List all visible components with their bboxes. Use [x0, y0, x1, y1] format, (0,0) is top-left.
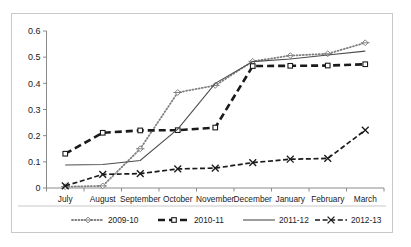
x-tick-label-march: March [354, 194, 377, 204]
data-point-marker [363, 62, 368, 67]
series-2009-10 [61, 40, 370, 190]
chart-legend: 2009-102010-112011-122012-13 [18, 206, 386, 225]
y-tick-label: 0.3 [28, 105, 41, 115]
x-tick-label-november: November [196, 194, 235, 204]
x-tick-label-december: December [234, 194, 273, 204]
y-tick-label: 0.5 [28, 52, 41, 62]
x-tick-label-august: August [90, 194, 117, 204]
legend-marker [172, 218, 177, 223]
data-point-marker [325, 63, 330, 68]
data-point-marker [63, 151, 68, 156]
data-point-marker [213, 125, 218, 130]
x-tick-label-january: January [275, 194, 305, 204]
data-point-marker [362, 127, 369, 134]
series-layer [61, 40, 370, 190]
legend-item-2010-11[interactable]: 2010-11 [158, 215, 224, 225]
y-axis: 00.10.20.30.40.50.6 [28, 26, 47, 193]
data-point-marker [288, 64, 293, 69]
y-tick-label: 0 [35, 183, 40, 193]
series-2010-11 [63, 62, 368, 156]
data-point-marker [138, 128, 143, 133]
data-point-marker [250, 64, 255, 69]
data-point-marker [100, 130, 105, 135]
y-tick-label: 0.2 [28, 131, 41, 141]
line-chart: 00.10.20.30.40.50.6 JulyAugustSeptemberO… [0, 0, 411, 247]
series-line [65, 51, 365, 165]
series-2011-12 [65, 51, 365, 165]
series-line [65, 43, 365, 187]
series-line [65, 64, 365, 153]
legend-label: 2010-11 [194, 215, 224, 225]
y-tick-label: 0.6 [28, 26, 41, 36]
legend-label: 2012-13 [351, 215, 382, 225]
x-tick-label-february: February [311, 194, 345, 204]
x-tick-label-july: July [58, 194, 74, 204]
x-axis: JulyAugustSeptemberOctoberNovemberDecemb… [47, 188, 385, 204]
x-tick-label-october: October [163, 194, 193, 204]
legend-item-2009-10[interactable]: 2009-10 [72, 215, 139, 225]
legend-label: 2009-10 [108, 215, 139, 225]
legend-label: 2011-12 [279, 215, 309, 225]
legend-item-2012-13[interactable]: 2012-13 [315, 215, 382, 225]
chart-container: 00.10.20.30.40.50.6 JulyAugustSeptemberO… [0, 0, 411, 247]
y-tick-label: 0.1 [28, 157, 41, 167]
x-tick-label-september: September [120, 194, 161, 204]
legend-item-2011-12[interactable]: 2011-12 [243, 215, 309, 225]
y-tick-label: 0.4 [28, 79, 41, 89]
